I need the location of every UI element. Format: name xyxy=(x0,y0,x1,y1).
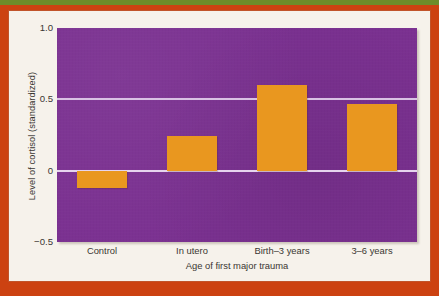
decorative-green-strip xyxy=(0,0,439,5)
bar xyxy=(347,104,397,171)
x-tick-label: Control xyxy=(57,245,147,256)
y-tick-label: 0 xyxy=(13,165,53,176)
y-axis-tick-labels: 1.00.50−0.5 xyxy=(9,11,53,281)
x-tick-label: Birth–3 years xyxy=(237,245,327,256)
bar xyxy=(257,85,307,171)
bar xyxy=(167,136,217,170)
x-tick-label: 3–6 years xyxy=(327,245,417,256)
y-tick-label: 0.5 xyxy=(13,93,53,104)
x-tick-label: In utero xyxy=(147,245,237,256)
bar-chart: Level of cortisol (standardized) 1.00.50… xyxy=(9,11,430,281)
y-tick-label: −0.5 xyxy=(13,236,53,247)
gridline xyxy=(57,98,417,100)
x-axis-title: Age of first major trauma xyxy=(57,260,417,271)
y-tick-label: 1.0 xyxy=(13,22,53,33)
x-axis-tick-labels: ControlIn uteroBirth–3 years3–6 years xyxy=(57,245,417,261)
plot-area xyxy=(57,28,417,242)
figure-card: Level of cortisol (standardized) 1.00.50… xyxy=(9,11,430,281)
bar xyxy=(77,171,127,188)
figure-page: Level of cortisol (standardized) 1.00.50… xyxy=(0,0,439,296)
